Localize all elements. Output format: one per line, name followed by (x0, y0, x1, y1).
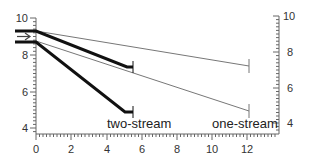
input-arrow-icon (17, 33, 30, 40)
right-y-ticks (273, 16, 279, 130)
y-tick-label: 8 (287, 46, 293, 58)
x-tick-label: 2 (68, 143, 74, 155)
one-stream-label: one-stream (212, 116, 278, 131)
two-stream-lower-line (15, 42, 133, 112)
y-tick-label: 4 (287, 117, 293, 129)
x-tick-label: 12 (241, 143, 253, 155)
x-tick-labels: 0 2 4 6 8 10 12 (33, 143, 253, 155)
y-tick-label: 6 (22, 86, 28, 98)
right-y-tick-labels: 10 8 6 4 (283, 10, 295, 129)
two-stream-upper-line (15, 31, 133, 67)
y-tick-label: 8 (22, 49, 28, 61)
y-tick-label: 6 (287, 82, 293, 94)
one-stream-upper-line (36, 31, 249, 66)
two-stream-label: two-stream (107, 116, 171, 131)
x-tick-label: 6 (139, 143, 145, 155)
one-stream-lower-line (36, 41, 249, 111)
y-tick-label: 4 (22, 122, 28, 134)
x-ticks (36, 134, 275, 140)
y-tick-label: 10 (283, 10, 295, 22)
x-tick-label: 10 (206, 143, 218, 155)
x-tick-label: 8 (174, 143, 180, 155)
two-stream-lines (15, 31, 133, 112)
y-tick-label: 10 (16, 12, 28, 24)
x-tick-label: 0 (33, 143, 39, 155)
x-tick-label: 4 (104, 143, 110, 155)
chart-canvas: 10 8 6 4 10 8 6 4 0 2 4 6 8 10 12 two (0, 0, 311, 164)
left-y-ticks (30, 18, 36, 132)
